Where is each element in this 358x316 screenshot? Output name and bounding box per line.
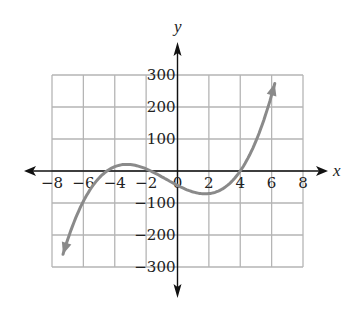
- polynomial-graph: −8−6−4−202468300200100−100−200−300 y x: [0, 0, 358, 316]
- x-tick-label: −4: [104, 174, 126, 192]
- x-tick-label: −2: [135, 174, 157, 192]
- y-tick-label: 300: [147, 66, 176, 84]
- curve-left-arrow-icon: [62, 241, 72, 254]
- x-tick-label: 6: [267, 174, 277, 192]
- x-tick-label: 8: [298, 174, 308, 192]
- axes: [24, 42, 328, 298]
- y-tick-label: −100: [134, 194, 175, 212]
- x-tick-label: 2: [204, 174, 214, 192]
- y-tick-label: −200: [134, 226, 175, 244]
- x-axis-label: x: [332, 161, 341, 180]
- y-axis-label: y: [172, 17, 182, 36]
- y-tick-label: 100: [147, 130, 176, 148]
- y-tick-label: −300: [134, 258, 175, 276]
- x-tick-label: −8: [41, 174, 63, 192]
- y-tick-label: 200: [147, 98, 176, 116]
